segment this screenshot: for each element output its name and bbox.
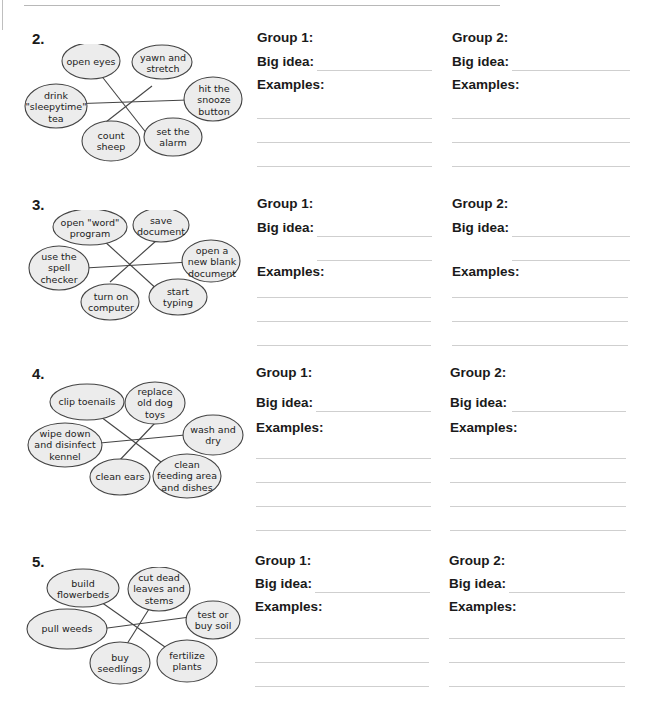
big-idea-answer-line[interactable] bbox=[317, 70, 432, 71]
example-answer-line[interactable] bbox=[255, 638, 429, 639]
big-idea-answer-line[interactable] bbox=[315, 592, 430, 593]
group-title: Group 2: bbox=[449, 553, 505, 568]
example-answer-line[interactable] bbox=[255, 686, 429, 687]
big-idea-answer-line[interactable] bbox=[509, 592, 625, 593]
web-diagram: clip toenails replace old dog toys wash … bbox=[25, 379, 250, 509]
group-title: Group 1: bbox=[255, 553, 311, 568]
example-answer-line[interactable] bbox=[449, 638, 625, 639]
bubble-item: turn on computer bbox=[83, 285, 139, 319]
example-answer-line[interactable] bbox=[450, 506, 626, 507]
bubble-item: open a new blank document bbox=[185, 242, 239, 282]
bubble-item: hit the snooze button bbox=[190, 80, 238, 120]
bubble-item: set the alarm bbox=[148, 120, 198, 154]
examples-label: Examples: bbox=[255, 599, 323, 614]
big-idea-answer-line[interactable] bbox=[512, 411, 626, 412]
bubble-item: replace old dog toys bbox=[129, 383, 181, 423]
example-answer-line[interactable] bbox=[256, 482, 431, 483]
big-idea-label: Big idea: bbox=[452, 220, 509, 235]
bubble-item: wipe down and disinfect kennel bbox=[30, 425, 100, 465]
web-diagram: open "word" program save document open a… bbox=[25, 210, 250, 340]
big-idea-label: Big idea: bbox=[256, 395, 313, 410]
big-idea-answer-line[interactable] bbox=[512, 236, 630, 237]
group-2-column: Group 2: Big idea: Examples: bbox=[450, 365, 630, 535]
example-answer-line[interactable] bbox=[256, 458, 431, 459]
examples-label: Examples: bbox=[450, 420, 518, 435]
examples-label: Examples: bbox=[449, 599, 517, 614]
example-answer-line[interactable] bbox=[256, 506, 431, 507]
examples-label: Examples: bbox=[452, 264, 520, 279]
examples-label: Examples: bbox=[257, 77, 325, 92]
examples-label: Examples: bbox=[452, 77, 520, 92]
big-idea-label: Big idea: bbox=[449, 576, 506, 591]
group-title: Group 1: bbox=[256, 365, 312, 380]
group-title: Group 2: bbox=[452, 196, 508, 211]
example-answer-line[interactable] bbox=[257, 297, 431, 298]
bubble-item: open eyes bbox=[62, 45, 120, 79]
group-title: Group 2: bbox=[450, 365, 506, 380]
group-2-column: Group 2: Big idea: Examples: bbox=[452, 196, 632, 356]
exercise-3: 3. open "word" program save document ope… bbox=[0, 196, 662, 356]
big-idea-answer-line[interactable] bbox=[512, 260, 630, 261]
example-answer-line[interactable] bbox=[257, 345, 431, 346]
page-edge-bar bbox=[2, 0, 3, 30]
example-answer-line[interactable] bbox=[449, 686, 625, 687]
example-answer-line[interactable] bbox=[257, 321, 431, 322]
example-answer-line[interactable] bbox=[450, 458, 626, 459]
web-diagram: open eyes yawn and stretch hit the snooz… bbox=[20, 44, 245, 174]
example-answer-line[interactable] bbox=[452, 118, 630, 119]
web-diagram: build flowerbeds cut dead leaves and ste… bbox=[25, 567, 250, 697]
example-answer-line[interactable] bbox=[452, 297, 628, 298]
example-answer-line[interactable] bbox=[257, 142, 432, 143]
example-answer-line[interactable] bbox=[449, 662, 625, 663]
bubble-item: wash and dry bbox=[187, 417, 239, 453]
example-answer-line[interactable] bbox=[450, 482, 626, 483]
example-answer-line[interactable] bbox=[452, 166, 630, 167]
big-idea-label: Big idea: bbox=[257, 220, 314, 235]
big-idea-answer-line[interactable] bbox=[316, 411, 431, 412]
bubble-item: pull weeds bbox=[31, 612, 103, 646]
example-answer-line[interactable] bbox=[257, 166, 432, 167]
example-answer-line[interactable] bbox=[452, 321, 628, 322]
examples-label: Examples: bbox=[256, 420, 324, 435]
group-2-column: Group 2: Big idea: Examples: bbox=[452, 30, 632, 180]
big-idea-label: Big idea: bbox=[257, 54, 314, 69]
bubble-item: build flowerbeds bbox=[49, 572, 117, 606]
big-idea-label: Big idea: bbox=[255, 576, 312, 591]
bubble-item: test or buy soil bbox=[188, 603, 238, 637]
group-title: Group 1: bbox=[257, 30, 313, 45]
example-answer-line[interactable] bbox=[256, 530, 431, 531]
bubble-item: cut dead leaves and stems bbox=[131, 569, 187, 609]
example-answer-line[interactable] bbox=[452, 142, 630, 143]
exercise-5: 5. build flowerbeds cut dead leaves and … bbox=[0, 553, 662, 703]
big-idea-answer-line[interactable] bbox=[317, 260, 432, 261]
bubble-item: clean feeding area and dishes bbox=[155, 456, 219, 496]
top-divider bbox=[24, 5, 500, 6]
group-title: Group 2: bbox=[452, 30, 508, 45]
group-1-column: Group 1: Big idea: Examples: bbox=[257, 30, 437, 180]
bubble-item: use the spell checker bbox=[31, 247, 87, 289]
exercise-4: 4. clip toenails replace old dog toys wa… bbox=[0, 365, 662, 535]
big-idea-label: Big idea: bbox=[450, 395, 507, 410]
bubble-item: drink "sleepytime" tea bbox=[25, 86, 87, 128]
bubble-item: clip toenails bbox=[51, 386, 123, 418]
example-answer-line[interactable] bbox=[257, 118, 432, 119]
bubble-item: buy seedlings bbox=[93, 646, 147, 680]
group-title: Group 1: bbox=[257, 196, 313, 211]
bubble-item: yawn and stretch bbox=[134, 46, 192, 80]
exercise-2: 2. open eyes yawn and stretch hit the sn… bbox=[0, 30, 662, 180]
bubble-item: count sheep bbox=[86, 124, 136, 158]
big-idea-answer-line[interactable] bbox=[317, 236, 432, 237]
big-idea-answer-line[interactable] bbox=[512, 70, 630, 71]
example-answer-line[interactable] bbox=[255, 662, 429, 663]
big-idea-label: Big idea: bbox=[452, 54, 509, 69]
group-1-column: Group 1: Big idea: Examples: bbox=[256, 365, 436, 535]
bubble-item: fertilize plants bbox=[160, 644, 214, 678]
bubble-item: clean ears bbox=[91, 461, 149, 493]
group-2-column: Group 2: Big idea: Examples: bbox=[449, 553, 629, 703]
examples-label: Examples: bbox=[257, 264, 325, 279]
example-answer-line[interactable] bbox=[452, 345, 628, 346]
group-1-column: Group 1: Big idea: Examples: bbox=[257, 196, 437, 356]
bubble-item: start typing bbox=[151, 280, 205, 314]
bubble-item: save document bbox=[133, 209, 189, 243]
example-answer-line[interactable] bbox=[450, 530, 626, 531]
